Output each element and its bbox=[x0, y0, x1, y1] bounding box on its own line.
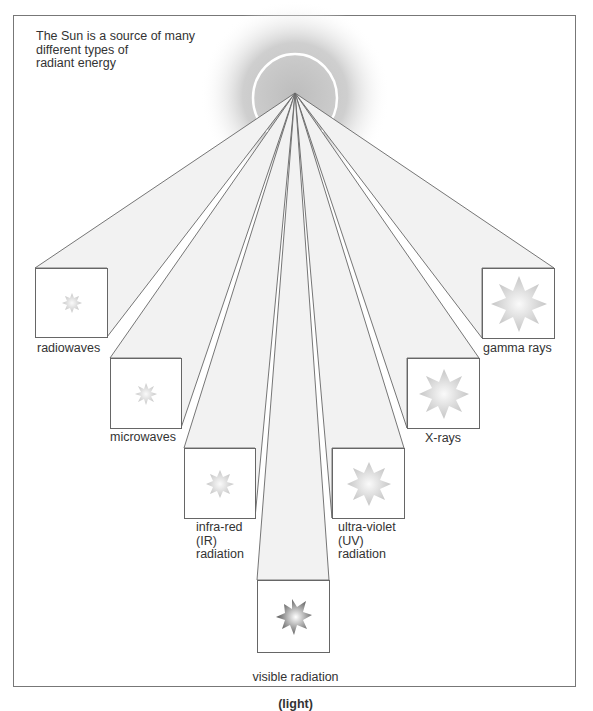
box-visible bbox=[257, 580, 330, 653]
star-burst-icon bbox=[347, 462, 391, 506]
label-gamma: gamma rays bbox=[483, 342, 552, 356]
label-visible-text: visible radiation bbox=[252, 670, 338, 684]
box-xrays bbox=[407, 358, 480, 429]
box-ultraviolet bbox=[332, 448, 405, 519]
box-infrared bbox=[184, 448, 256, 519]
box-radiowaves bbox=[35, 268, 108, 338]
star-burst-icon bbox=[135, 383, 157, 405]
caption: The Sun is a source of many different ty… bbox=[36, 30, 195, 71]
beams bbox=[35, 93, 554, 580]
star-burst-icon bbox=[276, 599, 312, 635]
label-xrays: X-rays bbox=[425, 432, 461, 446]
star-burst-icon bbox=[491, 276, 547, 332]
star-burst-icon bbox=[62, 293, 82, 313]
box-gamma bbox=[482, 268, 555, 339]
label-ultraviolet: ultra-violet (UV) radiation bbox=[338, 521, 396, 562]
star-burst-icon bbox=[206, 470, 234, 498]
label-infrared: infra-red (IR) radiation bbox=[196, 521, 244, 562]
label-visible: visible radiation (light) bbox=[248, 657, 343, 711]
label-microwaves: microwaves bbox=[110, 431, 176, 445]
label-radiowaves: radiowaves bbox=[37, 342, 100, 356]
star-burst-icon bbox=[419, 369, 469, 419]
box-microwaves bbox=[110, 358, 182, 429]
label-visible-bold: (light) bbox=[278, 697, 313, 711]
